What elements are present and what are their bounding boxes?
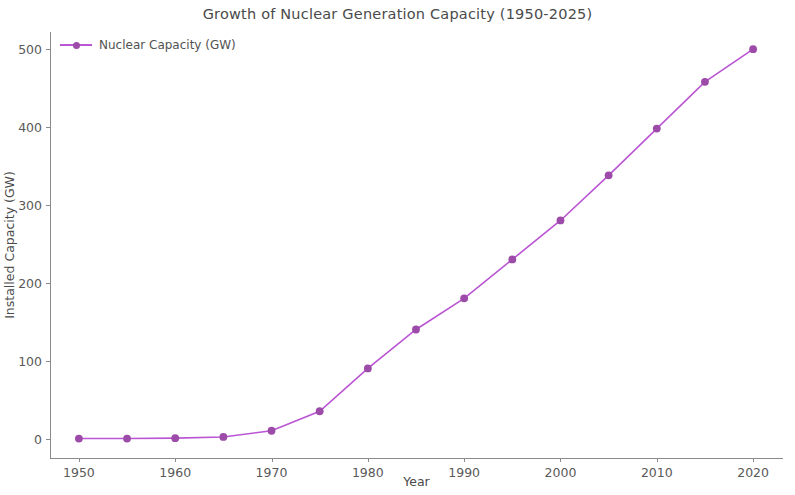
y-tick-label: 400 — [18, 120, 42, 135]
data-point-marker — [123, 435, 131, 443]
x-tick-mark — [464, 458, 465, 462]
data-point-marker — [749, 45, 757, 53]
series-line-nuclear-capacity — [79, 49, 753, 438]
y-tick-label: 500 — [18, 42, 42, 57]
chart-legend: Nuclear Capacity (GW) — [60, 38, 236, 52]
y-tick-label: 200 — [18, 275, 42, 290]
data-point-marker — [219, 433, 227, 441]
data-point-marker — [701, 78, 709, 86]
y-tick-label: 0 — [34, 431, 42, 446]
x-tick-mark — [753, 458, 754, 462]
data-point-marker — [557, 217, 565, 225]
data-point-marker — [653, 125, 661, 133]
data-point-marker — [268, 427, 276, 435]
x-tick-mark — [175, 458, 176, 462]
legend-marker-icon — [60, 39, 92, 51]
data-point-marker — [171, 434, 179, 442]
y-tick-label: 100 — [18, 353, 42, 368]
x-tick-mark — [560, 458, 561, 462]
data-series-svg — [50, 32, 782, 458]
series-markers-nuclear-capacity — [75, 45, 757, 442]
data-point-marker — [75, 435, 83, 443]
data-point-marker — [605, 171, 613, 179]
data-point-marker — [316, 407, 324, 415]
x-axis-label: Year — [50, 474, 783, 489]
chart-figure: Growth of Nuclear Generation Capacity (1… — [0, 0, 795, 495]
legend-label-nuclear-capacity: Nuclear Capacity (GW) — [99, 38, 236, 52]
x-tick-mark — [368, 458, 369, 462]
y-axis-label-container: Installed Capacity (GW) — [0, 32, 18, 458]
x-tick-mark — [657, 458, 658, 462]
x-tick-mark — [272, 458, 273, 462]
x-axis-line — [50, 458, 783, 459]
data-point-marker — [364, 365, 372, 373]
y-tick-label: 300 — [18, 197, 42, 212]
data-point-marker — [460, 294, 468, 302]
plot-area: 0100200300400500 19501960197019801990200… — [50, 32, 782, 458]
y-axis-label: Installed Capacity (GW) — [2, 171, 17, 319]
data-point-marker — [508, 256, 516, 264]
x-tick-mark — [79, 458, 80, 462]
legend-dot-icon — [73, 42, 80, 49]
chart-title: Growth of Nuclear Generation Capacity (1… — [0, 6, 795, 22]
data-point-marker — [412, 326, 420, 334]
